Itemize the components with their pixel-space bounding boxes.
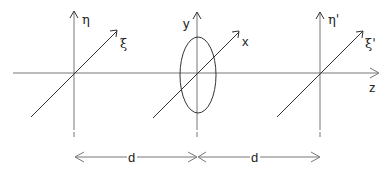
z-label: z [369, 80, 376, 95]
output-plane [277, 12, 363, 130]
x-axis [153, 32, 239, 118]
eta-prime-label: η' [328, 12, 339, 27]
xi-label: ξ [120, 36, 127, 51]
eta-label: η [82, 12, 90, 27]
xi-prime-label: ξ' [365, 36, 376, 51]
aperture-plane [153, 12, 239, 130]
distance-label-1: d [128, 150, 135, 165]
input-plane [31, 11, 117, 130]
y-label: y [183, 16, 190, 31]
x-arrow-icon [232, 31, 239, 38]
x-label: x [242, 34, 249, 49]
xi-arrow-icon [110, 30, 117, 37]
distance-label-2: d [251, 150, 258, 165]
elliptical-aperture [180, 37, 216, 113]
diagram-canvas: η ξ y x η' ξ' z d d [0, 0, 390, 173]
distance-markers [74, 132, 320, 162]
